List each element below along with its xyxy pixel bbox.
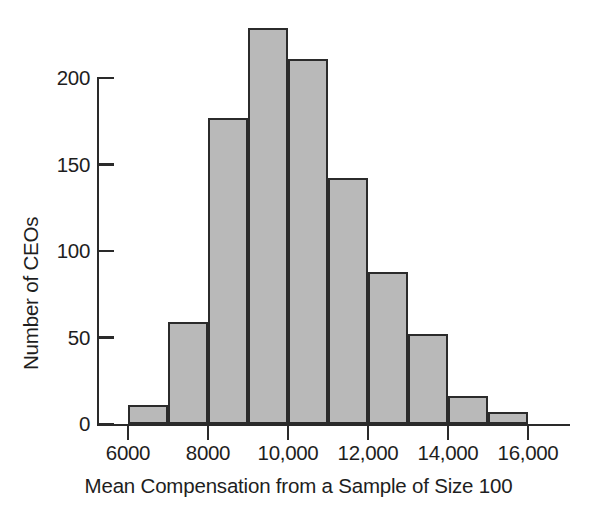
plot-area: 050100150200 6000800010,00012,00014,0001… — [0, 0, 597, 470]
x-axis-tick — [287, 426, 289, 440]
histogram-figure: 050100150200 6000800010,00012,00014,0001… — [0, 0, 597, 528]
histogram-bar — [288, 59, 328, 424]
histogram-bar — [168, 322, 208, 424]
histogram-bar — [128, 405, 168, 424]
histogram-bar — [368, 272, 408, 424]
x-axis-title: Mean Compensation from a Sample of Size … — [0, 474, 597, 498]
x-axis-tick-label-text: 16,000 — [468, 441, 588, 465]
y-axis-tick — [99, 336, 114, 338]
y-axis-tick-label: 0 — [28, 412, 90, 434]
y-axis-tick — [99, 423, 114, 425]
x-axis-tick — [527, 426, 529, 440]
y-axis-title: Number of CEOs — [14, 10, 48, 370]
histogram-bar — [408, 334, 448, 424]
x-axis-tick — [127, 426, 129, 440]
y-axis-tick — [99, 77, 114, 79]
x-axis-tick — [447, 426, 449, 440]
y-axis-tick — [99, 163, 114, 165]
y-axis-tick — [99, 250, 114, 252]
histogram-bar — [328, 178, 368, 424]
y-axis-tick-label-text: 0 — [34, 412, 90, 436]
histogram-bar — [208, 118, 248, 424]
histogram-bar — [488, 412, 528, 424]
histogram-bar — [248, 28, 288, 424]
histogram-bar — [448, 396, 488, 424]
x-axis-tick — [207, 426, 209, 440]
x-axis-tick — [367, 426, 369, 440]
x-axis-tick-label: 16,000 — [468, 441, 588, 467]
